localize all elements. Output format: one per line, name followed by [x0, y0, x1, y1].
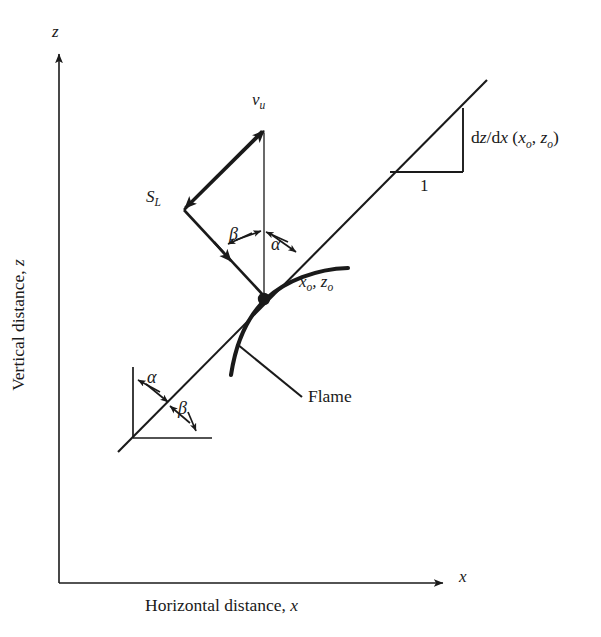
y-axis-tip-label: z	[52, 22, 59, 42]
slope-arg-x: x	[518, 127, 526, 147]
unburned-velocity-label: vu	[252, 90, 265, 111]
slope-run-label: 1	[420, 176, 429, 196]
beta-upper-arrow-right	[236, 231, 261, 240]
x-axis-caption-text: Horizontal distance,	[145, 595, 290, 615]
laminar-speed-symbol: S	[146, 187, 155, 206]
slope-x: x	[500, 127, 508, 147]
alpha-upper-label: α	[271, 234, 280, 255]
x-axis-caption-symbol: x	[290, 595, 298, 615]
slope-d2: d	[491, 127, 500, 147]
diagram-vector-graphics	[0, 0, 601, 637]
point-separator: ,	[312, 272, 321, 291]
slope-d1: d	[471, 127, 480, 147]
laminar-speed-label: SL	[146, 187, 161, 208]
flame-leader-line	[237, 344, 302, 397]
beta-lower-label: β	[178, 398, 187, 419]
slope-open-paren: (	[508, 127, 518, 147]
upper-angle-markers	[228, 231, 296, 252]
laminar-speed-subscript: L	[155, 196, 161, 208]
slope-close-paren: )	[553, 127, 559, 147]
unburned-velocity-symbol: v	[252, 90, 260, 109]
y-axis-caption-wrapper: Vertical distance, z	[6, 245, 30, 405]
beta-upper-label: β	[229, 224, 238, 245]
ignition-point-marker	[258, 293, 270, 305]
y-axis-caption-symbol: z	[8, 259, 28, 266]
slope-expression-label: dz/dx (xo, zo)	[471, 127, 559, 150]
figure-canvas: z x Horizontal distance, x Vertical dist…	[0, 0, 601, 637]
y-axis-caption-text: Vertical distance,	[8, 266, 28, 391]
flame-label: Flame	[308, 386, 352, 407]
velocity-vector-group	[184, 131, 264, 298]
alpha-lower-label: α	[147, 367, 156, 388]
unburned-velocity-subscript: u	[260, 99, 266, 111]
y-axis-caption: Vertical distance, z	[8, 259, 29, 391]
sl-vector-arrow	[185, 131, 262, 208]
lower-angle-construction	[133, 367, 212, 438]
slope-z: z	[480, 127, 487, 147]
x-axis-tip-label: x	[459, 567, 467, 587]
x-axis-caption: Horizontal distance, x	[145, 595, 298, 616]
point-coordinates-label: xo, zo	[299, 272, 333, 293]
point-x-symbol: x	[299, 272, 307, 291]
point-z-subscript: o	[327, 281, 333, 293]
